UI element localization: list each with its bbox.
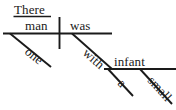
diagram-canvas: There man was one with infant a small bbox=[0, 0, 176, 110]
word-with: with bbox=[80, 45, 108, 72]
word-small: small bbox=[145, 73, 176, 104]
sentence-diagram: There man was one with infant a small bbox=[0, 0, 176, 110]
word-there: There bbox=[14, 2, 45, 17]
word-man: man bbox=[25, 18, 48, 33]
word-infant: infant bbox=[114, 54, 145, 69]
word-was: was bbox=[70, 18, 91, 33]
